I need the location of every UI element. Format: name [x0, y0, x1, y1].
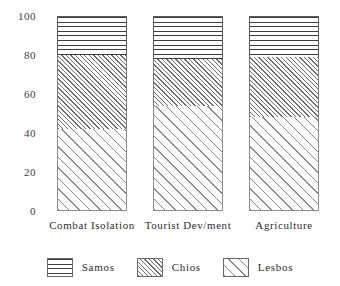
y-axis-tick-label: 20 — [24, 166, 36, 178]
y-axis-tick-label: 100 — [18, 10, 36, 22]
x-axis-tick-label: Combat Isolation — [49, 219, 135, 231]
legend-swatch-samos-icon — [47, 258, 73, 277]
legend-item-chios: Chios — [137, 258, 201, 277]
chart-legend: SamosChiosLesbos — [0, 252, 340, 282]
stacked-bar-chart: 100806040200 Combat IsolationTourist Dev… — [0, 0, 340, 286]
bar-segment-samos — [153, 16, 223, 59]
bar-segment-chios — [57, 55, 127, 129]
legend-label: Chios — [172, 261, 201, 273]
y-axis-tick-label: 60 — [24, 88, 36, 100]
x-axis: Combat IsolationTourist Dev/mentAgricult… — [44, 219, 332, 237]
legend-swatch-lesbos-icon — [223, 258, 249, 277]
y-axis-tick-label: 0 — [30, 205, 36, 217]
y-axis-tick-label: 40 — [24, 127, 36, 139]
bar-agriculture — [249, 16, 319, 211]
legend-item-samos: Samos — [47, 258, 115, 277]
bar-segment-lesbos — [57, 129, 127, 211]
legend-label: Samos — [82, 261, 115, 273]
legend-swatch-chios-icon — [137, 258, 163, 277]
x-axis-tick-label: Tourist Dev/ment — [145, 219, 232, 231]
y-axis: 100806040200 — [0, 16, 44, 211]
bar-combat-isolation — [57, 16, 127, 211]
y-axis-tick-label: 80 — [24, 49, 36, 61]
legend-label: Lesbos — [258, 261, 293, 273]
bar-segment-lesbos — [153, 106, 223, 211]
bar-tourist-dev-ment — [153, 16, 223, 211]
bar-segment-chios — [249, 57, 319, 117]
x-axis-tick-label: Agriculture — [255, 219, 312, 231]
legend-item-lesbos: Lesbos — [223, 258, 293, 277]
bar-segment-chios — [153, 59, 223, 106]
bar-segment-samos — [57, 16, 127, 55]
plot-area — [44, 16, 332, 211]
bar-segment-lesbos — [249, 117, 319, 211]
bar-segment-samos — [249, 16, 319, 57]
